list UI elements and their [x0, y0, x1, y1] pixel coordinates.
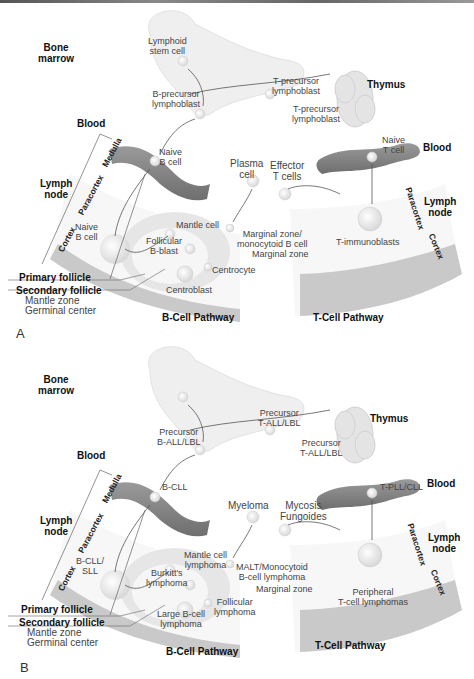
cell-label-t-precursor-2: Precursor T-ALL/LBL: [300, 438, 343, 458]
organ-label-bone-marrow: Bone marrow: [38, 42, 74, 64]
organ-label-blood-left: Blood: [77, 118, 105, 129]
top-border: [0, 0, 474, 3]
cell-label-naive-b-blood: Naive B cell: [159, 147, 182, 167]
pathway-label-t: T-Cell Pathway: [315, 640, 386, 651]
cell-label-centroblast: Centroblast: [166, 285, 212, 295]
organ-label-lymph-node-right: Lymph node: [428, 532, 460, 554]
cell-label-t-immunoblasts: T-immunoblasts: [336, 237, 400, 247]
panel-letter-a: A: [16, 326, 25, 341]
cell-label-naive-t-blood: Naive T cell: [382, 135, 405, 155]
cell-label-plasma: Plasma cell: [230, 158, 263, 180]
cell-label-follicular-blast: Follicular B-blast: [146, 236, 182, 256]
cell-label-follicular-blast: Burkitt's lymphoma: [146, 568, 188, 588]
follicle-label-germinal-center: Germinal center: [27, 638, 98, 648]
cell-label-lymphoid-stem: Lymphoid stem cell: [148, 36, 187, 56]
cell-label-centrocyte: Centrocyte: [212, 265, 256, 275]
cell-label-mantle: Mantle cell lymphoma: [184, 550, 227, 570]
cell-label-marginal-zone: Marginal zone: [256, 584, 313, 594]
panel-letter-b: B: [20, 660, 29, 675]
organ-label-thymus: Thymus: [367, 79, 405, 90]
cell-label-b-precursor: B-precursor lymphoblast: [152, 89, 200, 109]
organ-label-blood-left: Blood: [77, 450, 105, 461]
cell-label-centrocyte: Follicular lymphoma: [214, 597, 256, 617]
pathway-label-t: T-Cell Pathway: [313, 312, 384, 323]
cell-label-plasma: Myeloma: [228, 500, 269, 511]
cell-label-marginal-zone-cell: Marginal zone/ monocytoid B cell: [237, 229, 308, 249]
organ-label-lymph-node-left: Lymph node: [40, 178, 72, 200]
cell-label-t-precursor-1: T-precursor lymphoblast: [272, 76, 320, 96]
blood-vessel-left: [110, 482, 210, 536]
cell-label-marginal-zone-cell: MALT/Monocytoid B-cell lymphoma: [236, 562, 308, 582]
cell-label-mantle: Mantle cell: [176, 220, 219, 230]
pathway-label-b: B-Cell Pathway: [162, 312, 234, 323]
follicle-label-primary: Primary follicle: [21, 604, 93, 615]
cell-label-effector-t: Mycosis Fungoides: [280, 500, 327, 522]
organ-label-lymph-node-left: Lymph node: [40, 515, 72, 537]
cell-label-t-precursor-1: Precursor T-ALL/LBL: [258, 408, 301, 428]
organ-label-bone-marrow: Bone marrow: [38, 374, 74, 396]
panel-b: Bone marrow Precursor B-ALL/LBL Precurso…: [0, 340, 474, 670]
panel-a: Bone marrow Lymphoid stem cell B-precurs…: [0, 4, 474, 334]
pathway-label-b: B-Cell Pathway: [166, 646, 238, 657]
cell-label-naive-b-node: Naive B cell: [75, 222, 98, 242]
cell-label-t-immunoblasts: Peripheral T-cell lymphomas: [338, 587, 408, 607]
cell-label-t-precursor-2: T-precursor lymphoblast: [292, 104, 340, 124]
cell-label-naive-t-blood: T-PLL/CLL: [380, 482, 423, 492]
follicle-label-primary: Primary follicle: [19, 272, 91, 283]
cell-label-marginal-zone: Marginal zone: [252, 249, 309, 259]
cell-label-centroblast: Large B-cell lymphoma: [157, 609, 205, 629]
follicle-label-germinal-center: Germinal center: [25, 306, 96, 316]
organ-label-thymus: Thymus: [370, 413, 408, 424]
cell-label-naive-b-blood: B-CLL: [162, 482, 188, 492]
cell-label-effector-t: Effector T cells: [270, 160, 304, 182]
organ-label-blood-right: Blood: [423, 142, 451, 153]
organ-label-lymph-node-right: Lymph node: [424, 196, 456, 218]
organ-label-blood-right: Blood: [427, 478, 455, 489]
cell-label-b-precursor: Precursor B-ALL/LBL: [157, 427, 201, 447]
cell-label-naive-b-node: B-CLL/ SLL: [76, 556, 104, 576]
